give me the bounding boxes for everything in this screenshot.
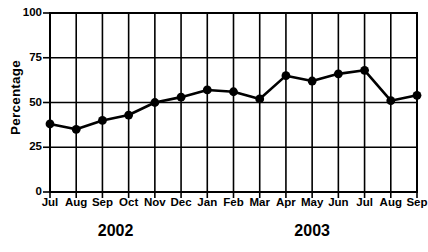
x-axis-tick-label: Jul xyxy=(42,196,59,209)
data-point xyxy=(72,125,81,134)
y-axis-ticks xyxy=(43,13,50,192)
x-axis-tick-label: Jul xyxy=(356,196,373,209)
data-point xyxy=(124,111,133,120)
x-axis-tick-label: May xyxy=(301,196,323,209)
data-point xyxy=(334,69,343,78)
x-axis-tick-label: Dec xyxy=(171,196,192,209)
data-point xyxy=(360,66,369,75)
data-point xyxy=(413,91,422,100)
data-point xyxy=(282,71,291,80)
x-axis-tick-label: Apr xyxy=(276,196,296,209)
x-axis-tick-label: Aug xyxy=(65,196,87,209)
x-axis-tick-label: Jan xyxy=(197,196,217,209)
data-point xyxy=(255,95,264,104)
data-point xyxy=(203,86,212,95)
data-point xyxy=(46,120,55,129)
data-point xyxy=(98,116,107,125)
x-axis-tick-label: Sep xyxy=(406,196,427,209)
x-axis-tick-labels: JulAugSepOctNovDecJanFebMarAprMayJunJulA… xyxy=(0,196,426,216)
data-point xyxy=(308,77,317,86)
x-axis-tick-label: Mar xyxy=(249,196,269,209)
data-point xyxy=(150,98,159,107)
x-axis-tick-label: Feb xyxy=(223,196,243,209)
x-axis-tick-label: Oct xyxy=(119,196,138,209)
x-axis-tick-label: Sep xyxy=(92,196,113,209)
x-axis-group-label: 2002 xyxy=(98,222,134,240)
x-axis-tick-label: Nov xyxy=(144,196,166,209)
data-point xyxy=(177,93,186,102)
x-axis-tick-label: Aug xyxy=(380,196,402,209)
x-axis-group-labels: 20022003 xyxy=(0,222,426,248)
data-point xyxy=(386,96,395,105)
x-axis-group-label: 2003 xyxy=(294,222,330,240)
x-axis-tick-label: Jun xyxy=(328,196,348,209)
data-point xyxy=(229,87,238,96)
